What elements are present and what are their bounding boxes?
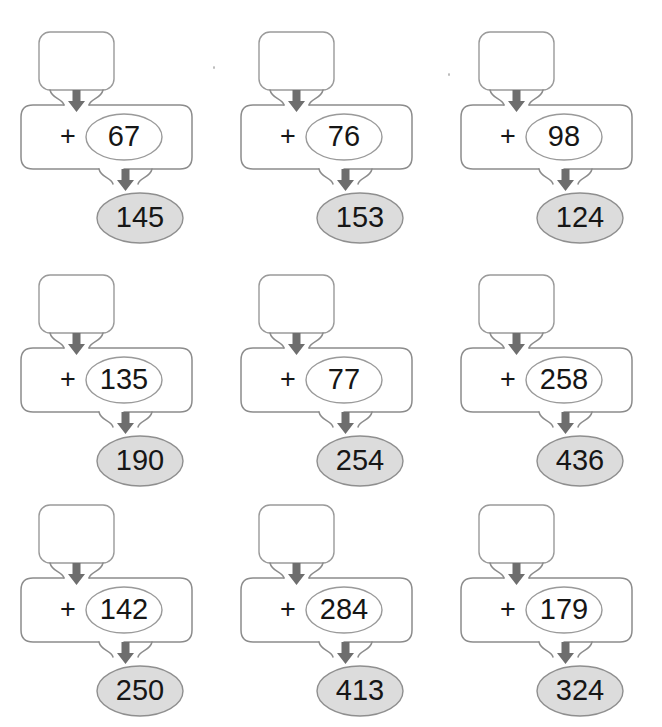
result-value: 250 — [97, 676, 183, 705]
top-right-hook-connector — [529, 90, 543, 105]
top-right-hook-connector — [309, 333, 323, 348]
bottom-right-hook-connector — [358, 642, 372, 657]
top-right-hook-connector — [309, 90, 323, 105]
bottom-left-hook-connector — [539, 169, 553, 184]
input-value-field-8[interactable] — [259, 505, 334, 563]
bottom-right-hook-connector — [138, 642, 152, 657]
top-right-hook-connector — [529, 563, 543, 578]
input-arrow-down-icon — [508, 90, 525, 112]
top-left-hook-connector — [490, 90, 504, 105]
operand-value: 76 — [306, 122, 382, 151]
function-machine: + 135 190 — [0, 243, 220, 473]
operand-value: 179 — [526, 595, 602, 624]
bottom-right-hook-connector — [578, 412, 592, 427]
result-value: 190 — [97, 446, 183, 475]
top-left-hook-connector — [490, 563, 504, 578]
bottom-left-hook-connector — [99, 412, 113, 427]
operand-value: 142 — [86, 595, 162, 624]
input-arrow-down-icon — [508, 563, 525, 585]
output-arrow-down-icon — [557, 642, 574, 664]
result-value: 153 — [317, 203, 403, 232]
input-arrow-down-icon — [68, 563, 85, 585]
function-machine: + 284 413 — [220, 473, 440, 727]
input-arrow-down-icon — [68, 333, 85, 355]
output-arrow-down-icon — [117, 642, 134, 664]
input-value-field-5[interactable] — [259, 275, 334, 333]
result-value: 436 — [537, 446, 623, 475]
output-arrow-down-icon — [557, 412, 574, 434]
bottom-left-hook-connector — [539, 412, 553, 427]
problem-cell-6: + 258 436 — [440, 243, 662, 473]
operator-symbol: + — [56, 123, 80, 150]
result-value: 124 — [537, 203, 623, 232]
problem-cell-2: + 76 153 — [220, 0, 440, 243]
worksheet-page: + 67 145 — [0, 0, 662, 727]
bottom-right-hook-connector — [358, 169, 372, 184]
input-value-field-3[interactable] — [479, 32, 554, 90]
operator-symbol: + — [276, 366, 300, 393]
result-value: 145 — [97, 203, 183, 232]
problem-cell-4: + 135 190 — [0, 243, 220, 473]
bottom-right-hook-connector — [578, 169, 592, 184]
function-machine: + 142 250 — [0, 473, 220, 727]
problem-cell-9: + 179 324 — [440, 473, 662, 727]
top-right-hook-connector — [89, 90, 103, 105]
top-left-hook-connector — [50, 90, 64, 105]
top-right-hook-connector — [309, 563, 323, 578]
bottom-left-hook-connector — [319, 412, 333, 427]
bottom-right-hook-connector — [138, 169, 152, 184]
input-value-field-4[interactable] — [39, 275, 114, 333]
input-value-field-9[interactable] — [479, 505, 554, 563]
result-value: 254 — [317, 446, 403, 475]
operator-symbol: + — [56, 596, 80, 623]
input-value-field-1[interactable] — [39, 32, 114, 90]
top-right-hook-connector — [89, 333, 103, 348]
bottom-right-hook-connector — [138, 412, 152, 427]
top-left-hook-connector — [270, 333, 284, 348]
operand-value: 77 — [306, 365, 382, 394]
output-arrow-down-icon — [117, 412, 134, 434]
operator-symbol: + — [276, 596, 300, 623]
function-machine: + 77 254 — [220, 243, 440, 473]
operator-symbol: + — [496, 596, 520, 623]
top-right-hook-connector — [89, 563, 103, 578]
problem-cell-7: + 142 250 — [0, 473, 220, 727]
bottom-left-hook-connector — [539, 642, 553, 657]
problem-cell-8: + 284 413 — [220, 473, 440, 727]
operator-symbol: + — [496, 123, 520, 150]
top-left-hook-connector — [270, 563, 284, 578]
bottom-left-hook-connector — [319, 642, 333, 657]
operand-value: 98 — [526, 122, 602, 151]
input-value-field-7[interactable] — [39, 505, 114, 563]
bottom-right-hook-connector — [358, 412, 372, 427]
result-value: 324 — [537, 676, 623, 705]
problem-cell-1: + 67 145 — [0, 0, 220, 243]
function-machine: + 179 324 — [440, 473, 662, 727]
bottom-left-hook-connector — [319, 169, 333, 184]
input-arrow-down-icon — [288, 90, 305, 112]
input-arrow-down-icon — [288, 563, 305, 585]
problem-cell-5: + 77 254 — [220, 243, 440, 473]
output-arrow-down-icon — [337, 169, 354, 191]
input-value-field-6[interactable] — [479, 275, 554, 333]
operand-value: 67 — [86, 122, 162, 151]
output-arrow-down-icon — [117, 169, 134, 191]
input-arrow-down-icon — [288, 333, 305, 355]
operator-symbol: + — [276, 123, 300, 150]
input-value-field-2[interactable] — [259, 32, 334, 90]
top-left-hook-connector — [490, 333, 504, 348]
function-machine: + 98 124 — [440, 0, 662, 243]
operand-value: 284 — [306, 595, 382, 624]
operand-value: 258 — [526, 365, 602, 394]
bottom-left-hook-connector — [99, 169, 113, 184]
bottom-left-hook-connector — [99, 642, 113, 657]
top-left-hook-connector — [270, 90, 284, 105]
output-arrow-down-icon — [337, 412, 354, 434]
top-right-hook-connector — [529, 333, 543, 348]
function-machine: + 258 436 — [440, 243, 662, 473]
operand-value: 135 — [86, 365, 162, 394]
function-machine: + 67 145 — [0, 0, 220, 243]
top-left-hook-connector — [50, 333, 64, 348]
top-left-hook-connector — [50, 563, 64, 578]
output-arrow-down-icon — [557, 169, 574, 191]
